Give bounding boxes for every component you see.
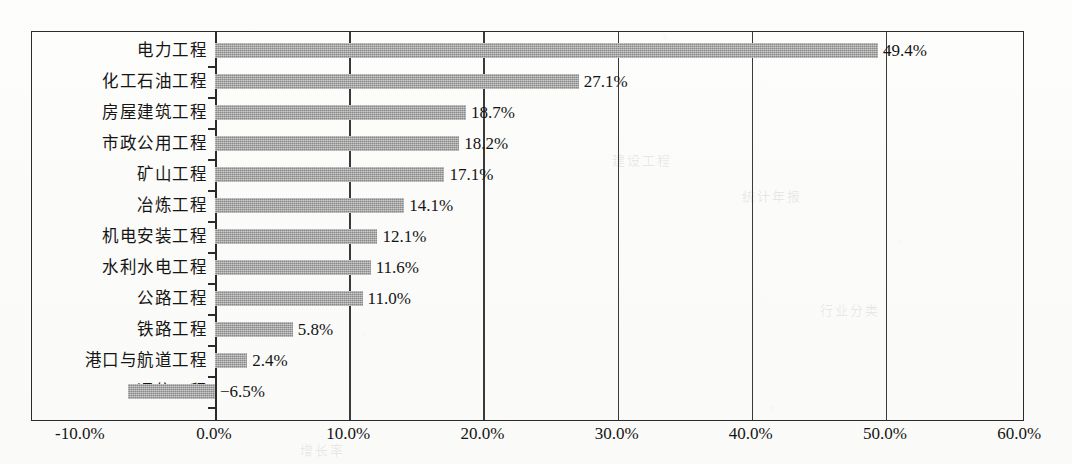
x-axis-tick-label: 30.0% xyxy=(595,424,639,444)
category-label: 机电安装工程 xyxy=(102,221,207,252)
bar xyxy=(215,353,247,368)
bar xyxy=(215,74,579,89)
bar-row: 房屋建筑工程18.7% xyxy=(32,97,1023,128)
bar-row: 市政公用工程18.2% xyxy=(32,128,1023,159)
bar xyxy=(215,136,459,151)
bar xyxy=(215,198,404,213)
bar-row: 公路工程11.0% xyxy=(32,283,1023,314)
bar-row: 铁路工程5.8% xyxy=(32,314,1023,345)
category-label: 矿山工程 xyxy=(137,159,207,190)
value-label: 27.1% xyxy=(584,66,628,97)
category-label: 冶炼工程 xyxy=(137,190,207,221)
bar xyxy=(215,229,377,244)
bar-row: 矿山工程17.1% xyxy=(32,159,1023,190)
bar-row: 机电安装工程12.1% xyxy=(32,221,1023,252)
category-label: 铁路工程 xyxy=(137,314,207,345)
value-label: 14.1% xyxy=(409,190,453,221)
category-axis-tick xyxy=(208,407,215,409)
bar xyxy=(215,291,363,306)
plot-area: 电力工程49.4%化工石油工程27.1%房屋建筑工程18.7%市政公用工程18.… xyxy=(32,32,1023,420)
page-background: 建设工程统计年报增长率行业分类 电力工程49.4%化工石油工程27.1%房屋建筑… xyxy=(0,0,1072,464)
value-label: 49.4% xyxy=(883,35,927,66)
value-label: 11.6% xyxy=(376,252,419,283)
bar-row: 通信工程−6.5% xyxy=(32,376,1023,407)
x-axis-tick-label: 50.0% xyxy=(863,424,907,444)
value-label: −6.5% xyxy=(220,376,265,407)
value-label: 2.4% xyxy=(252,345,287,376)
bar xyxy=(215,105,466,120)
x-axis-tick-label: 0.0% xyxy=(196,424,231,444)
category-label: 房屋建筑工程 xyxy=(102,97,207,128)
value-label: 18.7% xyxy=(471,97,515,128)
category-label: 电力工程 xyxy=(137,35,207,66)
x-axis-tick-label: 20.0% xyxy=(460,424,504,444)
category-label: 市政公用工程 xyxy=(102,128,207,159)
bar-chart: 电力工程49.4%化工石油工程27.1%房屋建筑工程18.7%市政公用工程18.… xyxy=(31,31,1024,421)
bar xyxy=(128,384,215,399)
bar-row: 冶炼工程14.1% xyxy=(32,190,1023,221)
x-axis-tick-label: 10.0% xyxy=(326,424,370,444)
category-label: 公路工程 xyxy=(137,283,207,314)
bar xyxy=(215,167,444,182)
x-axis-tick-label: 60.0% xyxy=(997,424,1041,444)
bar xyxy=(215,43,878,58)
category-label: 港口与航道工程 xyxy=(85,345,208,376)
category-label: 化工石油工程 xyxy=(102,66,207,97)
bar-row: 港口与航道工程2.4% xyxy=(32,345,1023,376)
value-label: 18.2% xyxy=(464,128,508,159)
bar xyxy=(215,322,293,337)
bar-row: 化工石油工程27.1% xyxy=(32,66,1023,97)
x-axis-tick-label: 40.0% xyxy=(729,424,773,444)
bar-row: 电力工程49.4% xyxy=(32,35,1023,66)
x-axis: -10.0%0.0%10.0%20.0%30.0%40.0%50.0%60.0% xyxy=(31,421,1024,455)
value-label: 11.0% xyxy=(368,283,411,314)
value-label: 5.8% xyxy=(298,314,333,345)
bar xyxy=(215,260,371,275)
bar-row: 水利水电工程11.6% xyxy=(32,252,1023,283)
value-label: 17.1% xyxy=(449,159,493,190)
value-label: 12.1% xyxy=(382,221,426,252)
x-axis-tick-label: -10.0% xyxy=(55,424,105,444)
category-label: 水利水电工程 xyxy=(102,252,207,283)
